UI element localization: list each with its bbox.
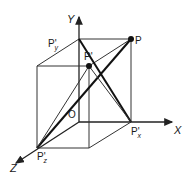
point-py-label: P'y [48,38,59,52]
y-axis-label: Y [67,13,75,25]
point-p [128,36,134,42]
point-p-prime-label: P' [84,51,93,62]
point-p-prime [86,63,92,69]
projector-pz-o [37,66,89,148]
z-axis-label: Z [9,162,18,174]
point-px-label: P'x [131,126,142,139]
x-axis-label: X [173,124,182,136]
projector-p-prime-px [89,66,131,122]
origin-label: O [68,109,76,120]
point-p-label: P [135,35,142,46]
z-axis [16,122,79,163]
point-pz-label: P'z [37,151,48,164]
projection-diagram: Y X Z O P P' P'y P'x P'z [0,0,190,178]
